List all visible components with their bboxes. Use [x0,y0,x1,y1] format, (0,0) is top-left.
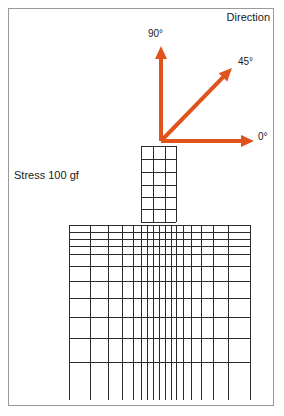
stress-value-label: Stress 100 gf [14,170,79,181]
arrow-90-head [155,46,167,59]
direction-title-label: Direction [227,12,270,23]
arrow-0 [161,135,254,147]
arrow-90 [155,46,167,141]
arrow-0-head [241,135,254,147]
arrow-45 [161,68,232,141]
indentation-mesh-figure: Direction Stress 100 gf 90° 45° 0° [0,0,284,416]
angle-label-90: 90° [148,29,163,39]
angle-label-0: 0° [258,132,268,142]
arrow-45-shaft [161,76,224,141]
angle-label-45: 45° [238,57,253,67]
